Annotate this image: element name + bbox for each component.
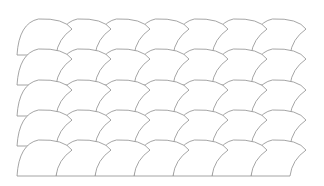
fan-tessellation-canvas <box>0 0 324 186</box>
tile-group <box>17 19 306 176</box>
